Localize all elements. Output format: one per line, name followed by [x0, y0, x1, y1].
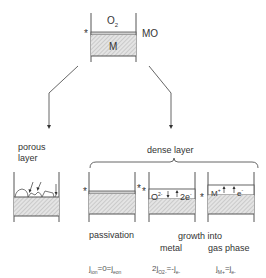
interface-marker-pass-right: *: [137, 183, 141, 194]
caption-metal: metal: [160, 243, 182, 254]
crack-arrow-1: [30, 182, 33, 191]
arrowhead-porous: [47, 125, 51, 129]
electron-label-gas: e-: [237, 185, 243, 199]
interface-marker-top: *: [84, 28, 88, 39]
crack-arrowhead-2: [37, 187, 40, 191]
arrow-to-dense: [149, 66, 171, 126]
porous-metal-block: [14, 197, 59, 216]
interface-marker-pass-left: *: [83, 186, 87, 197]
interface-marker-gas: *: [200, 192, 204, 203]
electron-label-metal: 2e-: [180, 189, 192, 203]
caption-growth-into: growth into: [178, 231, 222, 242]
caption-passivation: passivation: [89, 230, 134, 241]
dense-layer-label: dense layer: [147, 145, 194, 156]
crack-arrowhead-1: [29, 189, 32, 193]
arrowhead-dense: [169, 125, 173, 129]
dense-layer-brace: [90, 158, 258, 168]
pass-oxide-layer: [89, 191, 135, 194]
pass-metal-block: [89, 194, 135, 214]
metal-ion-label: M+: [211, 185, 221, 199]
oxide-ion-label: O2-: [151, 189, 162, 203]
top-oxide-layer: [91, 32, 136, 35]
equation-gas: jM+=je-: [216, 264, 236, 275]
equation-metal: 2jO2-=-je-: [152, 264, 180, 275]
porous-label-line1: porous: [18, 142, 46, 153]
equation-passivation: jion=0=jeon: [89, 264, 121, 275]
passivation-cell: [89, 172, 135, 222]
metal-label: M: [109, 41, 117, 52]
porous-cell: [14, 172, 59, 222]
porous-oxide-grains: [15, 189, 57, 197]
porous-label-line2: layer: [18, 153, 38, 164]
arrow-to-porous: [49, 66, 78, 126]
interface-marker-metal: *: [142, 186, 146, 197]
oxide-label: MO: [142, 28, 158, 39]
gas-label: O2: [107, 15, 118, 31]
caption-gas-phase: gas phase: [208, 243, 250, 254]
